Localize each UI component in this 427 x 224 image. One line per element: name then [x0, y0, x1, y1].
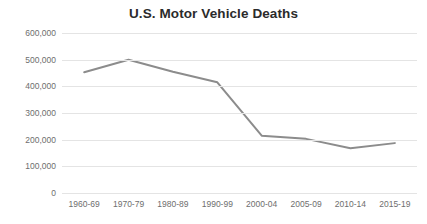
x-tick-label: 2015-19 — [379, 199, 410, 209]
gridline — [62, 140, 417, 141]
y-tick-label: 300,000 — [0, 108, 56, 118]
x-tick-label: 1960-69 — [69, 199, 100, 209]
gridline — [62, 86, 417, 87]
x-tick-label: 1980-89 — [157, 199, 188, 209]
y-axis: 0100,000200,000300,000400,000500,000600,… — [0, 33, 56, 193]
y-tick-label: 500,000 — [0, 55, 56, 65]
series-polyline — [84, 60, 395, 149]
x-tick-label: 2010-14 — [335, 199, 366, 209]
x-tick-label: 2005-09 — [290, 199, 321, 209]
gridline — [62, 60, 417, 61]
y-tick-label: 0 — [0, 188, 56, 198]
x-tick-label: 1990-99 — [202, 199, 233, 209]
plot-area — [62, 33, 417, 193]
y-tick-label: 600,000 — [0, 28, 56, 38]
x-tick-label: 1970-79 — [113, 199, 144, 209]
x-tick-label: 2000-04 — [246, 199, 277, 209]
chart-title: U.S. Motor Vehicle Deaths — [0, 6, 427, 21]
y-tick-label: 100,000 — [0, 161, 56, 171]
y-tick-label: 400,000 — [0, 81, 56, 91]
x-axis: 1960-691970-791980-891990-992000-042005-… — [62, 199, 417, 213]
gridline — [62, 166, 417, 167]
y-tick-label: 200,000 — [0, 135, 56, 145]
chart-screenshot: U.S. Motor Vehicle Deaths 0100,000200,00… — [0, 0, 427, 224]
gridline — [62, 33, 417, 34]
gridline — [62, 193, 417, 194]
gridline — [62, 113, 417, 114]
